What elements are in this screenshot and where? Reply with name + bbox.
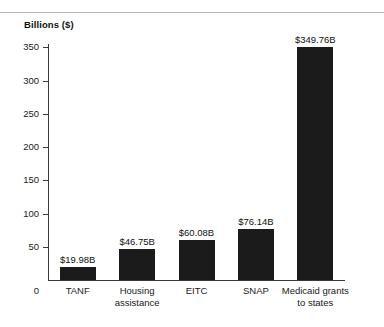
x-axis-category-label-4: Medicaid grants to states — [270, 285, 360, 308]
y-axis-label-text: 150 — [5, 175, 39, 185]
x-axis-line — [48, 280, 345, 281]
bar-4[interactable] — [297, 47, 333, 280]
top-divider-rule — [0, 12, 384, 13]
y-axis-label-50: 50 — [0, 242, 39, 252]
bar-2[interactable] — [179, 240, 215, 280]
y-axis-label-200: 200 — [0, 142, 39, 152]
y-axis-label-350: 350 — [0, 42, 39, 52]
y-axis-label-300: 300 — [0, 76, 39, 86]
bar-chart-figure: Billions ($) 50100150200250300350 0 $19.… — [0, 0, 384, 327]
y-axis-label-250: 250 — [0, 109, 39, 119]
bar-0[interactable] — [60, 267, 96, 280]
y-axis-label-text: 50 — [5, 242, 39, 252]
y-axis-label-text: 300 — [5, 76, 39, 86]
bar-value-label-3: $76.14B — [211, 217, 301, 227]
bar-value-label-1: $46.75B — [92, 237, 182, 247]
y-axis-label-text: 250 — [5, 109, 39, 119]
bar-value-label-2: $60.08B — [152, 228, 242, 238]
y-axis-label-text: 100 — [5, 209, 39, 219]
bar-value-label-0: $19.98B — [33, 255, 123, 265]
bar-1[interactable] — [119, 249, 155, 280]
y-axis-label-100: 100 — [0, 209, 39, 219]
bar-value-label-4: $349.76B — [270, 35, 360, 45]
chart-axis-title: Billions ($) — [24, 19, 74, 30]
y-axis-label-150: 150 — [0, 175, 39, 185]
y-axis-label-text: 200 — [5, 142, 39, 152]
bar-3[interactable] — [238, 229, 274, 280]
y-axis-label-text: 350 — [5, 42, 39, 52]
